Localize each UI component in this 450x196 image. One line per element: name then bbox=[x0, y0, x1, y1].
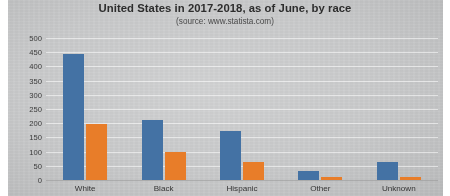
bar-unknown-series-1 bbox=[377, 162, 398, 180]
y-axis-tick-label: 50 bbox=[2, 161, 42, 170]
y-axis-tick-label: 500 bbox=[2, 34, 42, 43]
y-axis-tick-label: 300 bbox=[2, 90, 42, 99]
bar-unknown-series-2 bbox=[400, 177, 421, 180]
gridline-0 bbox=[46, 180, 438, 181]
bar-group-other: Other bbox=[281, 38, 359, 180]
bar-hispanic-series-1 bbox=[220, 131, 241, 180]
y-axis-tick-label: 400 bbox=[2, 62, 42, 71]
x-axis-tick-label-hispanic: Hispanic bbox=[226, 184, 257, 193]
x-axis-tick-label-black: Black bbox=[154, 184, 174, 193]
x-axis-tick-label-other: Other bbox=[310, 184, 330, 193]
y-axis-tick-label: 200 bbox=[2, 119, 42, 128]
x-axis-tick-label-white: White bbox=[75, 184, 96, 193]
bar-group-hispanic: Hispanic bbox=[203, 38, 281, 180]
bar-other-series-1 bbox=[298, 171, 319, 180]
chart-subtitle: (source: www.statista.com) bbox=[0, 17, 450, 26]
bar-hispanic-series-2 bbox=[243, 162, 264, 180]
chart-figure: United States in 2017-2018, as of June, … bbox=[0, 0, 450, 196]
y-axis-tick-label: 350 bbox=[2, 76, 42, 85]
chart-title: United States in 2017-2018, as of June, … bbox=[0, 2, 450, 14]
bar-black-series-1 bbox=[142, 120, 163, 180]
bar-other-series-2 bbox=[321, 177, 342, 180]
y-axis-tick-label: 100 bbox=[2, 147, 42, 156]
bar-group-white: White bbox=[46, 38, 124, 180]
x-axis-tick-label-unknown: Unknown bbox=[382, 184, 416, 193]
bar-white-series-2 bbox=[86, 124, 107, 180]
bar-black-series-2 bbox=[165, 152, 186, 180]
y-axis-tick-label: 0 bbox=[2, 176, 42, 185]
bar-group-black: Black bbox=[124, 38, 202, 180]
bar-white-series-1 bbox=[63, 54, 84, 180]
chart-plot: 500450400350300250200150100500WhiteBlack… bbox=[46, 38, 438, 180]
bar-group-unknown: Unknown bbox=[360, 38, 438, 180]
y-axis-tick-label: 450 bbox=[2, 48, 42, 57]
y-axis-tick-label: 150 bbox=[2, 133, 42, 142]
y-axis-tick-label: 250 bbox=[2, 105, 42, 114]
